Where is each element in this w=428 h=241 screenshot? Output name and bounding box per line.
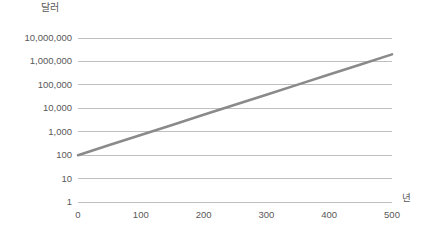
gridlines-group (78, 38, 392, 202)
x-axis-tick-label: 100 (116, 210, 166, 220)
y-axis-tick-label: 100,000 (0, 80, 72, 90)
x-axis-tick-label: 400 (304, 210, 354, 220)
x-axis-tick-label: 300 (241, 210, 291, 220)
data-line (78, 54, 392, 155)
y-axis-tick-label: 10,000,000 (0, 33, 72, 43)
x-axis-tick-label: 200 (179, 210, 229, 220)
y-axis-tick-label: 10 (0, 174, 72, 184)
y-axis-tick-label: 1 (0, 197, 72, 207)
y-axis-tick-label: 1,000,000 (0, 56, 72, 66)
y-axis-tick-label: 100 (0, 150, 72, 160)
chart-container: 달러 년 1101001,00010,000100,0001,000,00010… (0, 0, 428, 241)
y-axis-tick-label: 10,000 (0, 103, 72, 113)
x-axis-tick-label: 0 (53, 210, 103, 220)
y-axis-tick-label: 1,000 (0, 127, 72, 137)
x-axis-tick-label: 500 (367, 210, 417, 220)
data-series-group (78, 54, 392, 155)
